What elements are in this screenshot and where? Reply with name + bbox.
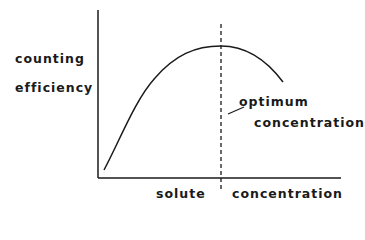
annotation-line1: optimum [239,94,309,109]
y-label-line2: efficiency [15,80,93,95]
y-label-line1: counting [15,51,85,66]
x-label-part1: solute [156,186,206,201]
annotation-line2: concentration [254,115,365,130]
x-label-part2: concentration [232,186,343,201]
